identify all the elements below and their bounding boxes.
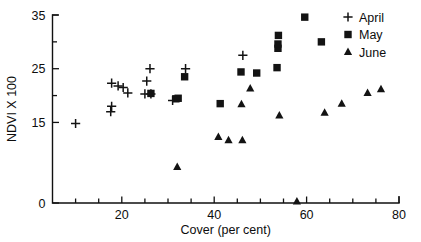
data-point-april-13	[238, 51, 247, 60]
legend: AprilMayJune	[343, 11, 386, 60]
legend-label-may: May	[359, 28, 383, 42]
data-point-april-0	[71, 119, 80, 128]
data-point-april-2	[107, 102, 116, 111]
data-point-may-7	[273, 64, 280, 71]
data-point-june-7	[293, 197, 301, 204]
y-tick-label-35: 35	[32, 9, 46, 23]
data-point-may-5	[237, 68, 244, 75]
y-tick-label-0: 0	[39, 197, 46, 211]
legend-marker-june	[344, 48, 352, 55]
x-tick-label-80: 80	[392, 208, 406, 222]
series-may	[147, 13, 325, 107]
data-point-may-3	[181, 73, 188, 80]
legend-label-april: April	[359, 11, 384, 25]
scatter-chart-figure: 015253520406080Cover (per cent)NDVI X 10…	[0, 0, 421, 242]
legend-label-june: June	[359, 46, 386, 60]
data-point-april-1	[106, 107, 115, 116]
series-april	[71, 51, 247, 128]
data-point-june-10	[363, 88, 371, 95]
x-axis-title: Cover (per cent)	[181, 223, 271, 237]
data-point-june-8	[321, 108, 329, 115]
data-point-may-10	[275, 32, 282, 39]
legend-marker-may	[344, 31, 351, 38]
data-point-june-1	[214, 132, 222, 139]
data-point-may-2	[174, 95, 181, 102]
data-point-june-0	[173, 163, 181, 170]
y-tick-label-25: 25	[32, 62, 46, 76]
data-point-may-12	[318, 38, 325, 45]
data-point-may-4	[217, 100, 224, 107]
data-point-may-9	[274, 40, 281, 47]
data-point-april-12	[181, 64, 190, 73]
data-point-may-0	[147, 90, 154, 97]
data-point-april-8	[142, 76, 151, 85]
x-tick-label-60: 60	[300, 208, 314, 222]
y-axis-title: NDVI X 100	[5, 76, 19, 142]
axis-lines	[53, 15, 400, 203]
data-point-june-4	[237, 100, 245, 107]
data-point-april-9	[145, 64, 154, 73]
series-june	[173, 84, 385, 204]
data-point-april-6	[123, 88, 132, 97]
legend-marker-april	[343, 12, 352, 21]
data-point-june-6	[275, 111, 283, 118]
data-point-may-6	[253, 69, 260, 76]
data-point-june-9	[338, 99, 346, 106]
data-point-may-11	[301, 13, 308, 20]
data-point-june-2	[224, 136, 232, 143]
data-point-june-3	[238, 136, 246, 143]
x-tick-label-40: 40	[207, 208, 221, 222]
data-point-june-5	[246, 84, 254, 91]
y-tick-label-15: 15	[32, 116, 46, 130]
data-point-april-5	[119, 83, 128, 92]
chart-canvas: 015253520406080Cover (per cent)NDVI X 10…	[0, 0, 421, 242]
x-tick-label-20: 20	[115, 208, 129, 222]
data-point-june-11	[377, 85, 385, 92]
